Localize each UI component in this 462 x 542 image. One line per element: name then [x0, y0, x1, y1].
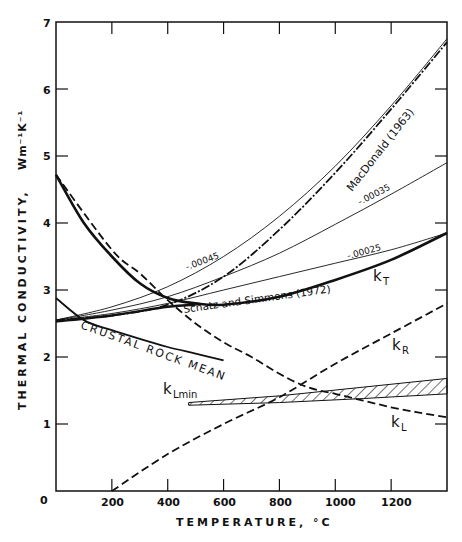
curves — [56, 39, 447, 491]
x-tick-labels: 0 200 400 600 800 1000 1200 — [40, 494, 412, 509]
label-crustal-rock-mean: CRUSTAL ROCK MEAN — [79, 319, 228, 384]
label-kT: k T — [373, 267, 390, 287]
x-tick-800: 800 — [269, 496, 292, 509]
kR-sub: R — [402, 345, 409, 356]
kLmin-sub: Lmin — [173, 389, 197, 400]
kT-sub: T — [382, 276, 390, 287]
label-kL: k L — [391, 413, 407, 433]
y-tick-4: 4 — [43, 217, 51, 230]
x-tick-600: 600 — [213, 496, 236, 509]
label-macdonald: MacDonald (1963) — [344, 106, 417, 194]
y-tick-3: 3 — [43, 284, 51, 297]
x-tick-1000: 1000 — [325, 496, 356, 509]
plot-frame — [56, 22, 447, 491]
kT-main: k — [373, 267, 382, 285]
x-tick-0: 0 — [40, 494, 48, 507]
label-kLmin: k Lmin — [163, 380, 197, 400]
curve-klmin — [189, 378, 447, 405]
y-tick-7: 7 — [43, 17, 51, 30]
thermal-conductivity-chart: 0 200 400 600 800 1000 1200 1 2 3 4 5 6 … — [0, 0, 462, 542]
x-tick-400: 400 — [157, 496, 180, 509]
y-axis-units: Wm⁻¹K⁻¹ — [16, 110, 29, 170]
kL-sub: L — [401, 422, 407, 433]
y-axis-title: THERMAL CONDUCTIVITY, — [16, 189, 29, 410]
label-kR: k R — [392, 336, 409, 356]
x-tick-200: 200 — [101, 496, 124, 509]
kLmin-main: k — [163, 380, 172, 398]
axis-ticks — [56, 22, 447, 491]
y-tick-labels: 1 2 3 4 5 6 7 — [43, 17, 51, 431]
label-00025: -.00025 — [346, 242, 382, 261]
y-tick-2: 2 — [43, 351, 51, 364]
kR-main: k — [392, 336, 401, 354]
y-tick-5: 5 — [43, 150, 51, 163]
kL-main: k — [391, 413, 400, 431]
y-tick-6: 6 — [43, 84, 51, 97]
y-tick-1: 1 — [43, 418, 51, 431]
x-tick-1200: 1200 — [381, 496, 412, 509]
x-axis-title: TEMPERATURE, °C — [176, 516, 333, 529]
